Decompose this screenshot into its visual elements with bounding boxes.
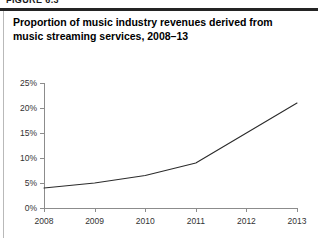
x-axis-line xyxy=(44,208,297,209)
x-axis-tick xyxy=(95,208,96,212)
frame-left-border xyxy=(3,11,4,238)
x-axis-tick xyxy=(145,208,146,212)
y-axis-label: 0% xyxy=(10,203,37,213)
x-axis-label: 2010 xyxy=(136,216,155,226)
figure-title: Proportion of music industry revenues de… xyxy=(13,16,303,43)
x-axis-tick xyxy=(246,208,247,212)
x-axis-tick xyxy=(297,208,298,212)
x-axis-tick xyxy=(196,208,197,212)
y-axis-label: 10% xyxy=(10,153,37,163)
x-axis-label: 2009 xyxy=(85,216,104,226)
x-axis-label: 2008 xyxy=(35,216,54,226)
y-axis-label: 20% xyxy=(10,103,37,113)
x-axis-label: 2011 xyxy=(187,216,205,226)
y-axis-label: 25% xyxy=(10,78,37,88)
figure-number-label: FIGURE 6.3 xyxy=(6,0,59,5)
data-series-line xyxy=(44,83,297,208)
x-axis-label: 2012 xyxy=(237,216,256,226)
chart-plot-area: 0%5%10%15%20%25% 20082009201020112012201… xyxy=(44,83,297,208)
header-rule xyxy=(0,8,318,11)
x-axis-tick xyxy=(44,208,45,212)
y-axis-label: 15% xyxy=(10,128,37,138)
x-axis-label: 2013 xyxy=(288,216,307,226)
y-axis-label: 5% xyxy=(10,178,37,188)
